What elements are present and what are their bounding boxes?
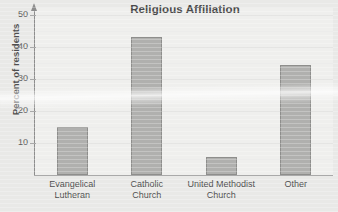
x-axis-category-label-line: United Methodist	[184, 179, 259, 190]
x-axis-category-label: EvangelicalLutheran	[35, 179, 110, 201]
y-axis-tick-label: 10	[6, 137, 28, 147]
y-axis-tick	[30, 15, 36, 16]
y-axis-line	[34, 10, 35, 176]
x-axis-category-label: CatholicChurch	[110, 179, 185, 201]
x-axis-line	[35, 175, 333, 176]
y-axis-tick	[30, 47, 36, 48]
y-axis-tick	[30, 143, 36, 144]
x-axis-category-label: Other	[259, 179, 334, 190]
gridline	[36, 15, 333, 16]
x-axis-category-label-line: Church	[184, 190, 259, 201]
x-axis-category-label-line: Other	[259, 179, 334, 190]
y-axis-tick	[30, 79, 36, 80]
bar	[206, 157, 237, 175]
x-axis-category-label-line: Church	[110, 190, 185, 201]
y-axis-tick	[30, 111, 36, 112]
x-axis-category-label-line: Evangelical	[35, 179, 110, 190]
gridline-minor	[36, 31, 333, 32]
bar	[57, 127, 88, 175]
y-axis-label: Percent of residents	[10, 5, 21, 135]
x-axis-category-label-line: Catholic	[110, 179, 185, 190]
x-axis-category-label-line: Lutheran	[35, 190, 110, 201]
gridline	[36, 47, 333, 48]
bar	[131, 37, 162, 175]
chart-title: Religious Affiliation	[36, 3, 334, 15]
bar	[280, 65, 311, 175]
x-axis-category-label: United MethodistChurch	[184, 179, 259, 201]
chart-screenshot: Religious Affiliation Percent of residen…	[0, 0, 338, 212]
